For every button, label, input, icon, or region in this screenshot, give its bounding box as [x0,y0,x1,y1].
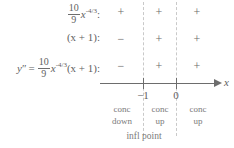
exponent-neg-four-thirds: -4/3 [86,7,97,15]
sign-cell: + [151,59,167,74]
sign-cell: + [113,5,129,20]
concavity-caption-line1: conc [102,103,142,115]
fraction-ten-ninths: 10 9 [38,57,50,79]
sign-cell: + [189,32,205,47]
axis-tick-mark [143,78,144,89]
sign-cell: + [151,32,167,47]
row-colon: : [97,8,100,20]
axis-tick-mark [176,78,177,89]
equals-sign: = [27,62,37,74]
axis-label-x: x [224,76,229,88]
number-line-axis [100,83,216,84]
row-colon: : [97,62,100,74]
concavity-caption: conc up [178,103,218,127]
sign-cell: − [113,32,129,47]
factor-x-plus-one: (x + 1) [67,62,97,74]
exponent-neg-four-thirds: -4/3 [56,61,67,69]
concavity-caption: conc down [102,103,142,127]
sign-cell: − [113,59,129,74]
concavity-caption-line2: down [102,115,142,127]
fraction-denominator: 9 [68,15,80,25]
concavity-caption-line1: conc [140,103,180,115]
expression-x-plus-one: (x + 1) [67,31,97,43]
sign-cell: + [189,5,205,20]
axis-arrow-icon [214,79,222,87]
row-label-first-factor: 10 9 x-4/3: [67,3,100,25]
concavity-sign-chart: 10 9 x-4/3: (x + 1): y″= 10 9 x-4/3(x + … [0,0,234,148]
fraction-numerator: 10 [38,57,50,67]
sign-cell: + [151,5,167,20]
row-colon: : [97,31,100,43]
inflection-point-annotation: infl point [116,131,172,141]
concavity-caption-line2: up [140,115,180,127]
axis-tick-label: −1 [131,89,155,101]
double-prime-icon: ″ [22,62,27,74]
fraction-ten-ninths: 10 9 [68,3,80,25]
concavity-caption-line1: conc [178,103,218,115]
sign-cell: + [189,59,205,74]
row-label-second-factor: (x + 1): [67,31,100,43]
fraction-numerator: 10 [68,3,80,13]
concavity-caption: conc up [140,103,180,127]
fraction-denominator: 9 [38,69,50,79]
axis-tick-label: 0 [164,89,188,101]
row-label-second-derivative: y″= 10 9 x-4/3(x + 1): [17,57,100,79]
concavity-caption-line2: up [178,115,218,127]
